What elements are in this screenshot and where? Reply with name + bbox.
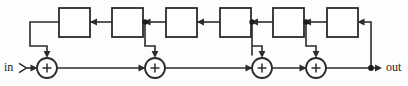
arrow-head-to-output [375,65,382,72]
delay-block-2[interactable] [112,8,143,37]
feedback-wire-output-to-delay6 [358,19,372,68]
arrow-head-into-delay3 [197,19,204,26]
tap-junction3-to-adder4 [306,22,319,58]
junction-dot-2 [249,19,254,24]
wire-delay4-to-delay3 [197,19,220,26]
schematic-canvas: in out [0,0,408,86]
output-label: out [386,60,402,74]
arrow-head-into-adder2 [152,51,159,58]
adder-4[interactable] [306,58,326,78]
arrow-head-into-delay1 [90,19,97,26]
delay-block-4[interactable] [220,8,251,37]
signal-flow-diagram: in out [0,0,408,86]
wire-adder3-to-adder4 [272,65,307,72]
junction-dot-4 [368,65,374,71]
junction-dot-1 [142,19,147,24]
wire-adder2-to-adder3 [165,65,253,72]
wire-adder1-to-adder2 [57,65,146,72]
delay-block-3[interactable] [166,8,197,37]
delay-block-1[interactable] [59,8,90,37]
arrow-head-into-adder1 [44,51,51,58]
tap-junction2-to-adder3 [252,22,265,58]
delay-block-6[interactable] [327,8,358,37]
tap-junction1-to-adder2 [145,22,158,58]
wire-delay1-to-adder1 [30,22,59,58]
arrow-head-into-adder4 [313,51,320,58]
adder-3[interactable] [252,58,272,78]
input-label: in [4,60,13,74]
delay-block-5[interactable] [273,8,304,37]
adder-2[interactable] [145,58,165,78]
input-wire [19,63,38,72]
junction-dot-3 [303,19,308,24]
adder-1[interactable] [37,58,57,78]
wire-delay2-to-delay1 [90,19,112,26]
